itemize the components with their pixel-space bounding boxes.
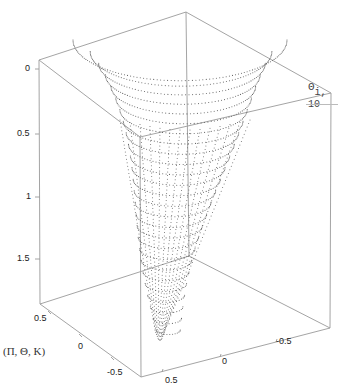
wireframe-box (35, 12, 331, 377)
z-tick-3: 1.5 (17, 253, 30, 263)
axis-label: (Π, Θ, K) (3, 345, 45, 357)
z-tick-2: 1 (26, 191, 31, 201)
legend: Θi, 10 (308, 81, 343, 105)
plot-canvas (0, 0, 343, 390)
right-tick-2: -0.5 (276, 336, 292, 346)
left-tick-1: 0 (78, 341, 83, 351)
z-tick-1: 0.5 (17, 128, 30, 138)
legend-symbol: Θ (308, 81, 315, 93)
left-tick-0: 0.5 (34, 313, 47, 323)
right-tick-0: 0.5 (165, 375, 178, 385)
left-tick-2: -0.5 (107, 367, 123, 377)
legend-underline (306, 104, 338, 105)
point-cloud (72, 39, 287, 340)
right-tick-1: 0 (222, 356, 227, 366)
z-tick-0: 0 (25, 63, 30, 73)
